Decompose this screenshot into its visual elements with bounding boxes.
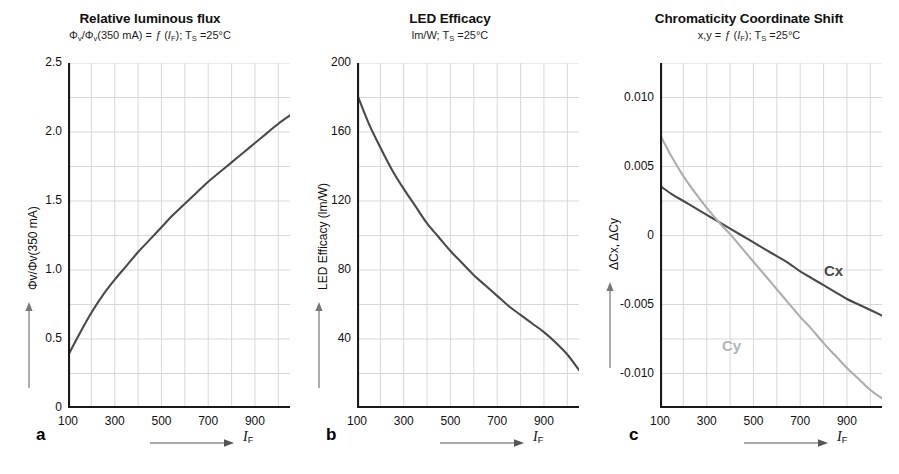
figure-container: Relative luminous flux Φv/Φv(350 mA) = ƒ… (0, 0, 899, 474)
chart-panel-b: LED Efficacy lm/W; TS =25°C LED Efficacy… (300, 0, 600, 474)
curve-led-efficacy (357, 94, 579, 370)
ytick-label: 1.0 (6, 262, 62, 276)
ytick-label: 0.5 (6, 331, 62, 345)
xtick-label: 700 (188, 414, 228, 428)
panel-a-y-arrow (22, 300, 36, 390)
xtick-label: 500 (141, 414, 181, 428)
panel-c-ylabel: ΔCx, ΔCy (607, 218, 621, 270)
panel-c-x-arrow (744, 436, 830, 450)
xtick-label: 900 (235, 414, 275, 428)
panel-a-title: Relative luminous flux (0, 10, 300, 27)
chart-panel-a: Relative luminous flux Φv/Φv(350 mA) = ƒ… (0, 0, 300, 474)
panel-c-title: Chromaticity Coordinate Shift (599, 10, 899, 27)
xtick-label: 100 (48, 414, 88, 428)
ytick-label: -0.005 (598, 297, 654, 311)
ytick-label: 200 (295, 55, 351, 69)
panel-b-gridlines (357, 63, 579, 408)
panel-a-titles: Relative luminous flux Φv/Φv(350 mA) = ƒ… (0, 10, 300, 44)
xtick-label: 500 (430, 414, 470, 428)
xtick-label: 900 (827, 414, 867, 428)
ytick-label: 160 (295, 124, 351, 138)
panel-b-xaxis-label: IF (533, 429, 543, 445)
xtick-label: 900 (524, 414, 564, 428)
ytick-label: 0 (598, 228, 654, 242)
panel-c-y-arrow (603, 280, 617, 370)
ytick-label: 80 (295, 262, 351, 276)
curve-cx (660, 186, 882, 316)
ytick-label: 2.5 (6, 55, 62, 69)
ytick-label: 1.5 (6, 193, 62, 207)
ytick-label: 0.010 (598, 90, 654, 104)
panel-c-curves (660, 135, 882, 399)
panel-b-title: LED Efficacy (300, 10, 600, 27)
xtick-label: 500 (733, 414, 773, 428)
xtick-label: 100 (337, 414, 377, 428)
panel-b-svg (357, 63, 579, 408)
xtick-label: 300 (687, 414, 727, 428)
ytick-label: 40 (295, 331, 351, 345)
curve-cy (660, 135, 882, 399)
panel-a-ylabel: Φv/Φv(350 mA) (26, 206, 40, 290)
panel-b-letter: b (326, 425, 336, 445)
curve-label-cx: Cx (824, 262, 843, 279)
ytick-label: -0.010 (598, 366, 654, 380)
panel-b-titles: LED Efficacy lm/W; TS =25°C (300, 10, 600, 44)
curve-label-cy: Cy (722, 337, 741, 354)
panel-c-subtitle: x,y = ƒ (IF); TS =25°C (599, 28, 899, 44)
panel-b-y-arrow (312, 300, 326, 390)
xtick-label: 100 (640, 414, 680, 428)
panel-a-x-arrow (150, 436, 236, 450)
ytick-label: 120 (295, 193, 351, 207)
chart-panel-c: Chromaticity Coordinate Shift x,y = ƒ (I… (599, 0, 899, 474)
panel-a-gridlines (68, 63, 290, 408)
ytick-label: 0 (6, 400, 62, 414)
panel-c-plot (660, 63, 882, 408)
ytick-label: 2.0 (6, 124, 62, 138)
panel-c-gridlines (660, 63, 882, 408)
xtick-label: 700 (780, 414, 820, 428)
panel-c-xaxis-label: IF (837, 429, 847, 445)
panel-a-xaxis-label: IF (243, 429, 253, 445)
panel-c-titles: Chromaticity Coordinate Shift x,y = ƒ (I… (599, 10, 899, 44)
xtick-label: 300 (384, 414, 424, 428)
panel-b-plot (357, 63, 579, 408)
panel-a-letter: a (36, 425, 45, 445)
panel-b-x-arrow (440, 436, 526, 450)
ytick-label: 0.005 (598, 159, 654, 173)
panel-c-letter: c (629, 425, 638, 445)
panel-b-curves (357, 94, 579, 370)
panel-a-plot (68, 63, 290, 408)
panel-c-svg (660, 63, 882, 408)
xtick-label: 300 (95, 414, 135, 428)
panel-b-subtitle: lm/W; TS =25°C (300, 28, 600, 44)
xtick-label: 700 (477, 414, 517, 428)
panel-a-subtitle: Φv/Φv(350 mA) = ƒ (IF); TS =25°C (0, 28, 300, 44)
panel-a-svg (68, 63, 290, 408)
